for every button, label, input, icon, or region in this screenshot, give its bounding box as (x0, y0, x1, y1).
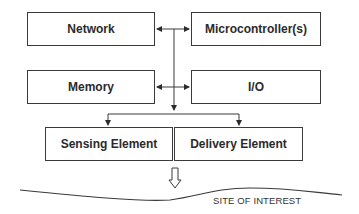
io-block: I/O (191, 70, 321, 104)
memory-block: Memory (27, 70, 155, 104)
microcontroller-block: Microcontroller(s) (191, 12, 321, 46)
network-block: Network (27, 12, 155, 46)
io-label: I/O (248, 80, 264, 94)
sensing-label: Sensing Element (61, 137, 158, 151)
network-label: Network (67, 22, 114, 36)
memory-label: Memory (68, 80, 114, 94)
site-of-interest-label: SITE OF INTEREST (213, 195, 301, 206)
delivery-label: Delivery Element (190, 137, 287, 151)
delivery-element-block: Delivery Element (174, 127, 303, 161)
sensing-element-block: Sensing Element (45, 127, 173, 161)
hollow-down-arrow-icon (169, 168, 181, 188)
microcontroller-label: Microcontroller(s) (205, 22, 307, 36)
